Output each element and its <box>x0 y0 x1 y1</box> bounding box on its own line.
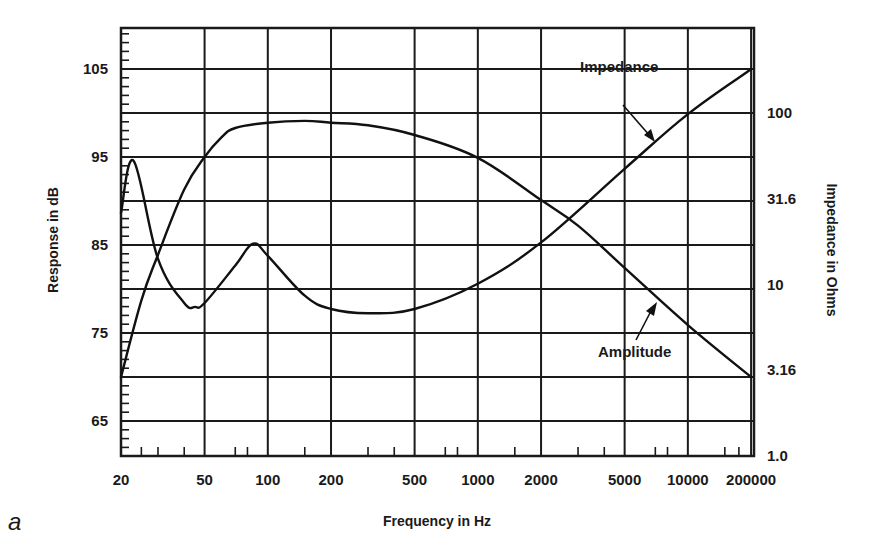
x-tick-label: 5000 <box>608 471 641 488</box>
x-tick-label: 500 <box>402 471 427 488</box>
panel-label: a <box>8 508 21 535</box>
y-tick-label: 105 <box>83 60 108 77</box>
x-tick-label: 10000 <box>667 471 709 488</box>
plot-frame <box>121 28 754 456</box>
x-axis-title: Frequency in Hz <box>383 513 491 529</box>
impedance-arrow-shaft <box>623 105 650 136</box>
y-tick-label: 85 <box>91 236 108 253</box>
grid-lines <box>121 28 754 456</box>
x-tick-label: 100 <box>255 471 280 488</box>
chart: 205010020050010002000500010000200000 105… <box>0 0 874 554</box>
amplitude-curve <box>121 121 751 377</box>
x-tick-label: 200 <box>319 471 344 488</box>
x-tick-label: 200000 <box>726 471 776 488</box>
x-tick-label: 20 <box>113 471 130 488</box>
y-right-tick-label: 100 <box>767 104 792 121</box>
y-axis-left-title: Response in dB <box>45 187 61 293</box>
curves <box>121 69 751 377</box>
impedance-label: Impedance <box>580 58 658 75</box>
y-axis-right-title: Impedance in Ohms <box>824 183 840 316</box>
amplitude-arrow-shaft <box>636 311 651 340</box>
amplitude-annotation: Amplitude <box>598 302 671 360</box>
y-tick-label: 75 <box>91 324 108 341</box>
y-axis-left-tick-labels: 10595857565 <box>83 60 108 429</box>
y-tick-label: 65 <box>91 412 108 429</box>
x-axis-tick-labels: 205010020050010002000500010000200000 <box>113 471 776 488</box>
amplitude-label: Amplitude <box>598 343 671 360</box>
x-tick-label: 1000 <box>461 471 494 488</box>
impedance-curve <box>121 69 751 313</box>
impedance-annotation: Impedance <box>580 58 658 142</box>
amplitude-arrow-head-icon <box>646 302 657 316</box>
y-right-tick-label: 1.0 <box>767 447 788 464</box>
x-tick-label: 50 <box>196 471 213 488</box>
y-right-tick-label: 3.16 <box>767 361 796 378</box>
y-right-tick-label: 10 <box>767 276 784 293</box>
y-axis-right-tick-labels: 10031.6103.161.0 <box>767 104 796 464</box>
y-right-tick-label: 31.6 <box>767 190 796 207</box>
y-tick-label: 95 <box>91 148 108 165</box>
x-tick-label: 2000 <box>524 471 557 488</box>
